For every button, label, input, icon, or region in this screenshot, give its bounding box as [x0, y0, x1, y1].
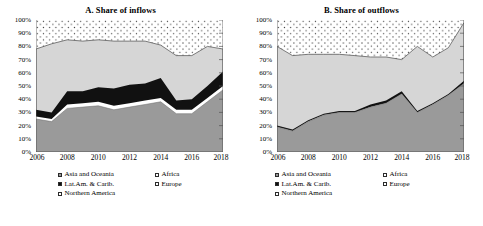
- x-tick-label: 2010: [332, 154, 347, 162]
- x-tick-label: 2018: [455, 154, 470, 162]
- black-swatch-icon: [275, 182, 279, 186]
- chart-panel-inflows: A. Share of inflows 100% 90% 80% 70% 60%…: [0, 0, 241, 226]
- legend-column-2: Africa Europe: [383, 170, 410, 189]
- legend-column-2: Africa Europe: [155, 170, 182, 189]
- x-tick-label: 2012: [363, 154, 378, 162]
- legend-column-1: Asia and Oceania Lat.Am. & Carib. Northe…: [275, 170, 332, 199]
- x-axis-labels-b: 2006 2008 2010 2012 2014 2016 2018: [277, 154, 464, 168]
- y-tick-label: 70%: [18, 56, 31, 63]
- y-tick-label: 40%: [18, 96, 31, 103]
- chart-title-a: A. Share of inflows: [0, 5, 241, 15]
- x-tick-label: 2008: [60, 154, 75, 162]
- gray-swatch-icon: [58, 173, 62, 177]
- y-tick-label: 100%: [256, 17, 272, 24]
- x-axis-labels-a: 2006 2008 2010 2012 2014 2016 2018: [36, 154, 223, 168]
- white-swatch-icon: [383, 173, 387, 177]
- legend-item-europe[interactable]: Europe: [155, 180, 182, 190]
- plot-area-b: 100% 90% 80% 70% 60% 50% 40% 30% 20% 10%…: [241, 17, 482, 157]
- y-tick-label: 30%: [18, 109, 31, 116]
- legend-item-latam-carib[interactable]: Lat.Am. & Carib.: [58, 180, 115, 190]
- dotted-swatch-icon: [155, 182, 159, 186]
- x-tick-label: 2006: [271, 154, 286, 162]
- y-tick-label: 80%: [259, 43, 272, 50]
- x-tick-label: 2016: [425, 154, 440, 162]
- y-tick-label: 50%: [18, 83, 31, 90]
- legend-item-asia-oceania[interactable]: Asia and Oceania: [275, 170, 332, 180]
- y-tick-label: 70%: [259, 56, 272, 63]
- legend-label: Northern America: [65, 189, 116, 199]
- legend-label: Northern America: [282, 189, 333, 199]
- y-tick-label: 40%: [259, 96, 272, 103]
- legend-item-northern-america[interactable]: Northern America: [58, 189, 115, 199]
- x-tick-label: 2010: [91, 154, 106, 162]
- legend-label: Lat.Am. & Carib.: [65, 180, 115, 190]
- legend-item-africa[interactable]: Africa: [383, 170, 410, 180]
- legend-item-africa[interactable]: Africa: [155, 170, 182, 180]
- y-tick-label: 90%: [259, 30, 272, 37]
- stacked-area-plot-a: [36, 20, 223, 152]
- y-tick-label: 20%: [18, 122, 31, 129]
- y-tick-label: 10%: [259, 135, 272, 142]
- white-swatch-icon: [58, 192, 62, 196]
- y-tick-label: 80%: [18, 43, 31, 50]
- legend-label: Europe: [162, 180, 182, 190]
- figure-container: A. Share of inflows 100% 90% 80% 70% 60%…: [0, 0, 483, 226]
- legend-label: Europe: [390, 180, 410, 190]
- x-tick-label: 2018: [214, 154, 229, 162]
- legend-label: Asia and Oceania: [65, 170, 114, 180]
- legend-label: Africa: [162, 170, 180, 180]
- x-tick-label: 2016: [184, 154, 199, 162]
- chart-panel-outflows: B. Share of outflows 100% 90% 80% 70% 60…: [241, 0, 482, 226]
- y-tick-label: 60%: [18, 69, 31, 76]
- x-tick-label: 2014: [153, 154, 168, 162]
- legend-item-latam-carib[interactable]: Lat.Am. & Carib.: [275, 180, 332, 190]
- x-tick-label: 2014: [394, 154, 409, 162]
- y-tick-label: 30%: [259, 109, 272, 116]
- chart-title-b: B. Share of outflows: [241, 5, 482, 15]
- white-swatch-icon: [155, 173, 159, 177]
- x-tick-label: 2006: [30, 154, 45, 162]
- white-swatch-icon: [275, 192, 279, 196]
- legend-label: Asia and Oceania: [282, 170, 331, 180]
- y-tick-label: 50%: [259, 83, 272, 90]
- x-tick-label: 2012: [122, 154, 137, 162]
- black-swatch-icon: [58, 182, 62, 186]
- legend-item-europe[interactable]: Europe: [383, 180, 410, 190]
- plot-area-a: 100% 90% 80% 70% 60% 50% 40% 30% 20% 10%…: [0, 17, 241, 157]
- y-axis-labels-b: 100% 90% 80% 70% 60% 50% 40% 30% 20% 10%…: [241, 17, 274, 157]
- y-tick-label: 60%: [259, 69, 272, 76]
- dotted-swatch-icon: [383, 182, 387, 186]
- legend-item-asia-oceania[interactable]: Asia and Oceania: [58, 170, 115, 180]
- y-tick-label: 10%: [18, 135, 31, 142]
- legend-label: Africa: [390, 170, 408, 180]
- legend-column-1: Asia and Oceania Lat.Am. & Carib. Northe…: [58, 170, 115, 199]
- y-axis-labels-a: 100% 90% 80% 70% 60% 50% 40% 30% 20% 10%…: [0, 17, 33, 157]
- gray-swatch-icon: [275, 173, 279, 177]
- legend-item-northern-america[interactable]: Northern America: [275, 189, 332, 199]
- y-tick-label: 90%: [18, 30, 31, 37]
- legend-label: Lat.Am. & Carib.: [282, 180, 332, 190]
- stacked-area-plot-b: [277, 20, 464, 152]
- y-tick-label: 20%: [259, 122, 272, 129]
- x-tick-label: 2008: [301, 154, 316, 162]
- y-tick-label: 100%: [15, 17, 31, 24]
